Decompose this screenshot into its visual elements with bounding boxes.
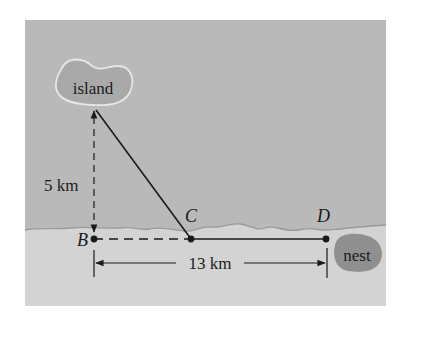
point-d-label: D bbox=[316, 206, 330, 226]
vertical-distance-label: 5 km bbox=[44, 176, 78, 195]
point-d bbox=[323, 236, 330, 243]
nest-label: nest bbox=[343, 246, 371, 265]
diagram-figure: island nest B C D 5 km 13 km bbox=[0, 0, 434, 338]
point-c bbox=[188, 236, 195, 243]
point-b bbox=[91, 236, 98, 243]
island-label: island bbox=[73, 79, 114, 98]
horizontal-distance-label: 13 km bbox=[189, 254, 232, 273]
point-c-label: C bbox=[185, 206, 198, 226]
point-b-label: B bbox=[77, 230, 88, 250]
